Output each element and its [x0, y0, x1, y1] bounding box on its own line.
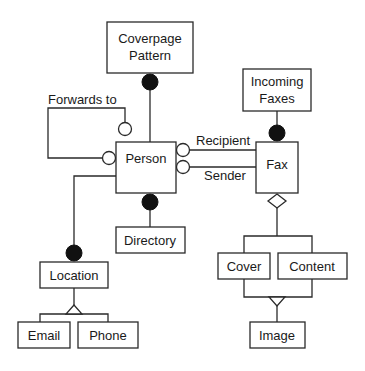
sender-open-circle-icon: [177, 161, 190, 174]
fax-label: Fax: [266, 157, 288, 172]
location-gen-bar: [40, 314, 108, 322]
entity-location[interactable]: Location: [40, 262, 108, 288]
aggregation-diamond-icon: [268, 194, 286, 208]
forwards-to-loop-line: [48, 108, 125, 158]
entity-directory[interactable]: Directory: [116, 227, 185, 253]
directory-filled-circle-icon: [142, 194, 158, 210]
directory-label: Directory: [124, 233, 177, 248]
person-label: Person: [125, 151, 166, 166]
entity-image[interactable]: Image: [250, 322, 305, 348]
phone-label: Phone: [89, 328, 127, 343]
image-generalization-triangle-icon: [269, 297, 285, 306]
incoming-label-line1: Incoming: [251, 74, 304, 89]
location-label: Location: [49, 268, 98, 283]
coverpage-label-line2: Pattern: [129, 48, 171, 63]
forwards-to-open-circle-icon: [119, 123, 132, 136]
incoming-label-line2: Faxes: [259, 91, 295, 106]
email-label: Email: [28, 328, 61, 343]
entity-person[interactable]: Person: [116, 142, 176, 193]
entity-cover[interactable]: Cover: [218, 253, 270, 279]
entity-incoming-faxes[interactable]: Incoming Faxes: [243, 69, 311, 111]
entity-content[interactable]: Content: [278, 253, 347, 279]
image-gen-bar: [244, 279, 312, 297]
entity-phone[interactable]: Phone: [78, 322, 138, 348]
forwards-from-open-circle-icon: [103, 152, 116, 165]
entity-fax[interactable]: Fax: [256, 142, 298, 193]
recipient-label: Recipient: [196, 133, 251, 148]
entity-email[interactable]: Email: [18, 322, 70, 348]
forwards-to-label: Forwards to: [48, 92, 117, 107]
cover-label: Cover: [227, 259, 262, 274]
recipient-open-circle-icon: [177, 144, 190, 157]
location-filled-circle-icon: [66, 245, 82, 261]
content-label: Content: [289, 259, 335, 274]
location-generalization-triangle-icon: [66, 305, 82, 314]
object-model-diagram: Coverpage Pattern Person Incoming Faxes …: [0, 0, 365, 371]
entity-coverpage-pattern[interactable]: Coverpage Pattern: [107, 22, 193, 73]
sender-label: Sender: [204, 168, 247, 183]
coverpage-label-line1: Coverpage: [118, 31, 182, 46]
image-label: Image: [259, 328, 295, 343]
fax-agg-bar: [244, 236, 312, 253]
coverpage-filled-circle-icon: [142, 74, 158, 90]
person-location-line: [74, 176, 116, 253]
incoming-filled-circle-icon: [269, 125, 285, 141]
